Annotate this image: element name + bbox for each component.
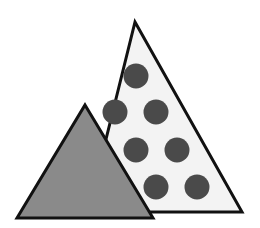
dot-1 xyxy=(124,64,149,89)
dot-2 xyxy=(103,100,128,125)
dot-7 xyxy=(185,175,210,200)
overlapping-triangles-diagram xyxy=(0,0,260,228)
dot-3 xyxy=(144,100,169,125)
dot-5 xyxy=(165,138,190,163)
dot-4 xyxy=(124,138,149,163)
dot-6 xyxy=(144,175,169,200)
